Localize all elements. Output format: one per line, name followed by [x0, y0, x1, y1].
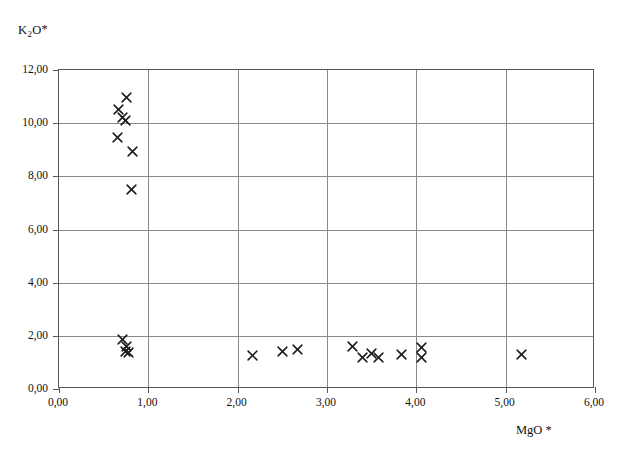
y-tick-label: 12,00 — [22, 63, 48, 75]
data-point-marker — [357, 352, 368, 363]
data-point-marker — [366, 348, 377, 359]
data-point-marker — [120, 115, 131, 126]
tick-mark-x — [416, 387, 417, 393]
y-axis-title-prefix: K — [18, 23, 27, 37]
x-axis-title: MgO * — [516, 423, 552, 438]
data-point-marker — [247, 350, 258, 361]
data-point-marker — [120, 346, 131, 357]
tick-mark-y — [53, 336, 59, 337]
y-axis-title: K2O* — [18, 22, 48, 39]
tick-mark-y — [53, 70, 59, 71]
y-tick-label: 4,00 — [28, 276, 48, 288]
y-tick-label: 8,00 — [28, 169, 48, 181]
tick-mark-y — [53, 123, 59, 124]
x-tick-label: 3,00 — [316, 396, 336, 408]
tick-mark-y — [53, 283, 59, 284]
data-point-marker — [112, 132, 123, 143]
gridline-horizontal — [59, 283, 593, 284]
x-tick-label: 0,00 — [48, 396, 68, 408]
x-tick-label: 2,00 — [227, 396, 247, 408]
plot-area — [58, 69, 594, 388]
tick-mark-x — [238, 387, 239, 393]
gridline-horizontal — [59, 336, 593, 337]
gridline-vertical — [416, 70, 417, 387]
gridline-horizontal — [59, 230, 593, 231]
data-point-marker — [396, 349, 407, 360]
y-axis-title-star: * — [42, 22, 48, 36]
data-point-marker — [292, 344, 303, 355]
data-point-marker — [516, 349, 527, 360]
tick-mark-x — [595, 387, 596, 393]
y-tick-label: 10,00 — [22, 116, 48, 128]
data-point-marker — [126, 184, 137, 195]
gridline-vertical — [506, 70, 507, 387]
data-point-marker — [347, 341, 358, 352]
gridline-horizontal — [59, 123, 593, 124]
x-tick-label: 6,00 — [584, 396, 604, 408]
y-tick-label: 6,00 — [28, 223, 48, 235]
scatter-chart-figure: K2O* MgO * 0,002,004,006,008,0010,0012,0… — [0, 0, 624, 457]
data-point-marker — [117, 112, 128, 123]
data-point-marker — [373, 352, 384, 363]
gridline-horizontal — [59, 176, 593, 177]
tick-mark-x — [327, 387, 328, 393]
gridline-vertical — [327, 70, 328, 387]
tick-mark-y — [53, 230, 59, 231]
y-tick-label: 2,00 — [28, 329, 48, 341]
data-point-marker — [416, 342, 427, 353]
data-point-marker — [123, 347, 134, 358]
data-point-marker — [121, 92, 132, 103]
data-point-marker — [121, 341, 132, 352]
tick-mark-x — [59, 387, 60, 393]
gridline-vertical — [238, 70, 239, 387]
data-point-marker — [113, 104, 124, 115]
y-axis-title-mid: O — [32, 23, 41, 37]
tick-mark-x — [148, 387, 149, 393]
y-tick-label: 0,00 — [28, 382, 48, 394]
data-point-marker — [416, 352, 427, 363]
x-tick-label: 4,00 — [405, 396, 425, 408]
gridline-vertical — [148, 70, 149, 387]
data-point-marker — [127, 146, 138, 157]
tick-mark-x — [506, 387, 507, 393]
x-tick-label: 5,00 — [495, 396, 515, 408]
tick-mark-y — [53, 176, 59, 177]
data-point-marker — [277, 346, 288, 357]
x-tick-label: 1,00 — [137, 396, 157, 408]
